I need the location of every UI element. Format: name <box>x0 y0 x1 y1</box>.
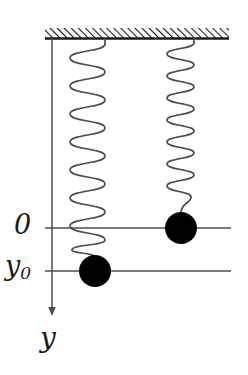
diagram-canvas <box>0 0 248 375</box>
left-mass <box>79 255 111 287</box>
y-axis <box>48 38 56 316</box>
y0-label: y0 <box>5 252 31 282</box>
right-mass <box>165 212 197 244</box>
right-spring <box>167 38 194 213</box>
y0-label-subscript: 0 <box>20 263 31 283</box>
right-spring-tail <box>181 197 191 213</box>
y-axis-label: y <box>40 324 56 352</box>
left-spring-coils <box>70 44 105 250</box>
ceiling-support <box>45 28 229 39</box>
y0-label-symbol: y <box>5 250 20 281</box>
ceiling-hatching <box>45 28 229 38</box>
right-spring-coils <box>167 43 194 197</box>
spring-mass-figure: 0 y0 y <box>0 0 248 375</box>
left-spring <box>70 38 105 258</box>
origin-label: 0 <box>14 211 31 238</box>
y-axis-arrowhead <box>48 307 56 316</box>
